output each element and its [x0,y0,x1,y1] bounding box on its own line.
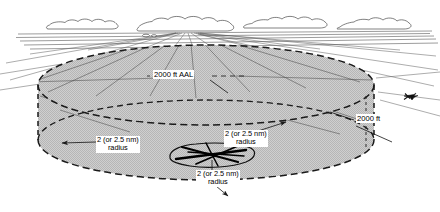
radius-label-right-line2: radius [225,138,267,146]
radius-label-right: 2 (or 2.5 nm) radius [224,130,268,147]
aircraft-icon [404,93,418,100]
radius-label-left: 2 (or 2.5 nm) radius [96,136,140,153]
cloudlet-icon [143,34,157,37]
cloud-icon [337,18,411,29]
airspace-diagram: 2000 ft AAL 2 (or 2.5 nm) radius 2 (or 2… [0,0,440,212]
cloud-icon [46,19,118,29]
airspace-cylinder [14,33,374,180]
cloud-icon [137,16,234,31]
radius-label-left-line2: radius [97,144,139,152]
height-label-right: 2000 ft [356,114,381,123]
radius-label-bottom-line2: radius [197,178,239,186]
cloud-icon [244,16,327,28]
cloud-group [46,16,411,37]
ceiling-label: 2000 ft AAL [153,70,194,79]
radius-label-bottom: 2 (or 2.5 nm) radius [196,170,240,187]
